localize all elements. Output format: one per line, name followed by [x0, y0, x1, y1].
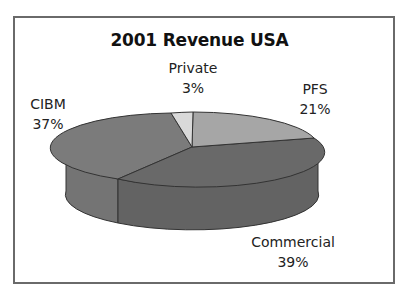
label-commercial-name: Commercial — [230, 232, 356, 252]
label-pfs: PFS 21% — [280, 79, 350, 119]
label-cibm: CIBM 37% — [18, 94, 78, 134]
label-cibm-name: CIBM — [18, 94, 78, 114]
label-pfs-name: PFS — [280, 79, 350, 99]
label-commercial-value: 39% — [230, 252, 356, 272]
label-private-value: 3% — [148, 78, 238, 98]
label-commercial: Commercial 39% — [230, 232, 356, 272]
label-pfs-value: 21% — [280, 99, 350, 119]
label-private-name: Private — [148, 58, 238, 78]
label-cibm-value: 37% — [18, 114, 78, 134]
label-private: Private 3% — [148, 58, 238, 98]
